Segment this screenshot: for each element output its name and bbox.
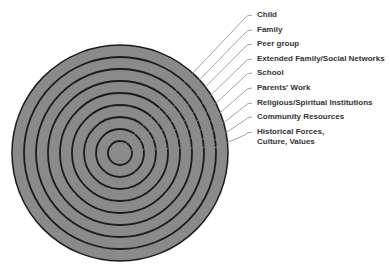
- label-culture-values: Culture, Values: [257, 137, 315, 146]
- label-community-resources: Community Resources: [257, 112, 344, 121]
- label-family: Family: [257, 25, 282, 34]
- label-extended-family: Extended Family/Social Networks: [257, 54, 385, 63]
- label-school: School: [257, 68, 284, 77]
- label-child: Child: [257, 10, 277, 19]
- label-parents-work: Parents' Work: [257, 83, 310, 92]
- concentric-rings: [12, 45, 228, 261]
- label-peer-group: Peer group: [257, 39, 299, 48]
- ring-outer: [12, 45, 228, 261]
- label-religious-institutions: Religious/Spiritual Institutions: [257, 98, 373, 107]
- ecological-systems-diagram: [0, 0, 391, 275]
- label-historical-forces: Historical Forces,: [257, 127, 324, 136]
